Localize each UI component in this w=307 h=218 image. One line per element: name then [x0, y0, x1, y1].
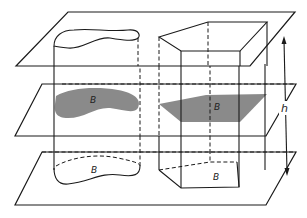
prism-section-label: B	[214, 102, 220, 112]
height-label: h	[281, 102, 288, 115]
top-plane	[16, 12, 295, 66]
prism-base-label: B	[213, 172, 219, 182]
bottom-plane	[15, 152, 296, 205]
cylinder-base-label: B	[91, 165, 97, 175]
cavalieri-diagram: B B B B	[0, 0, 307, 218]
cylinder-section-label: B	[90, 95, 96, 105]
arrow-up-icon	[282, 36, 287, 44]
